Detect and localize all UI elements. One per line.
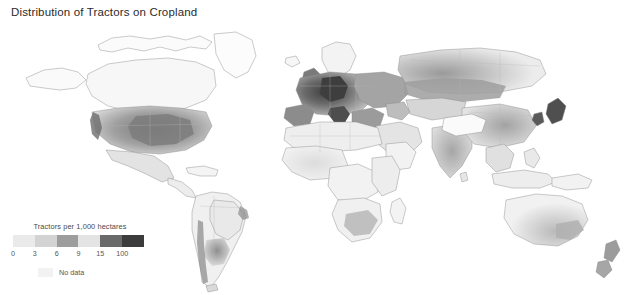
legend-color-bar [13,235,144,247]
legend-tick-6: 6 [55,249,59,258]
region-central-america [168,178,196,198]
legend-tick-9: 9 [77,249,81,258]
region-japan [546,98,566,124]
legend-tick-3: 3 [33,249,37,258]
legend-title: Tractors per 1,000 hectares [6,222,154,231]
legend-segment-5 [122,235,144,247]
figure-canvas: Distribution of Tractors on Cropland [0,0,638,295]
region-australia [504,194,588,246]
region-indonesia [492,170,556,188]
legend-segment-4 [100,235,122,247]
legend-nodata-entry: No data [38,268,154,277]
region-greenland [214,32,256,78]
legend-segment-0 [13,235,35,247]
region-southeast-asia [486,144,514,172]
legend-segment-2 [57,235,79,247]
region-central-africa [328,164,378,202]
region-iberia [284,104,314,126]
legend-tick-0: 0 [11,249,15,258]
legend-tick-15: 15 [96,249,104,258]
legend: Tractors per 1,000 hectares 036915100 No… [8,222,154,277]
region-alaska [26,68,86,90]
region-new-zealand [604,240,620,262]
nodata-label: No data [59,268,84,277]
nodata-swatch [38,268,53,277]
region-new-zealand-south [596,260,612,278]
region-mexico [106,150,174,182]
region-iceland [285,56,300,67]
legend-tick-labels: 036915100 [13,249,144,261]
region-canada-mainland [86,58,216,112]
legend-segment-3 [78,235,100,247]
region-madagascar [390,198,406,224]
region-caucasus-caspian [386,102,410,120]
region-new-guinea [552,174,592,190]
region-caribbean [186,166,218,176]
legend-segment-1 [35,235,57,247]
legend-tick-100: 100 [116,249,128,258]
region-canada-arctic [98,36,212,52]
region-philippines [524,148,540,168]
region-sri-lanka [460,172,468,182]
